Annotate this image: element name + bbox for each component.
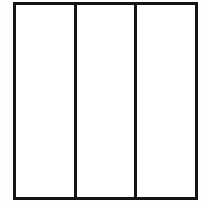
panel-left[interactable] bbox=[16, 5, 74, 197]
panel-group bbox=[16, 5, 195, 197]
panel-right[interactable] bbox=[137, 5, 195, 197]
diagram-canvas bbox=[0, 0, 208, 206]
panel-center[interactable] bbox=[77, 5, 135, 197]
